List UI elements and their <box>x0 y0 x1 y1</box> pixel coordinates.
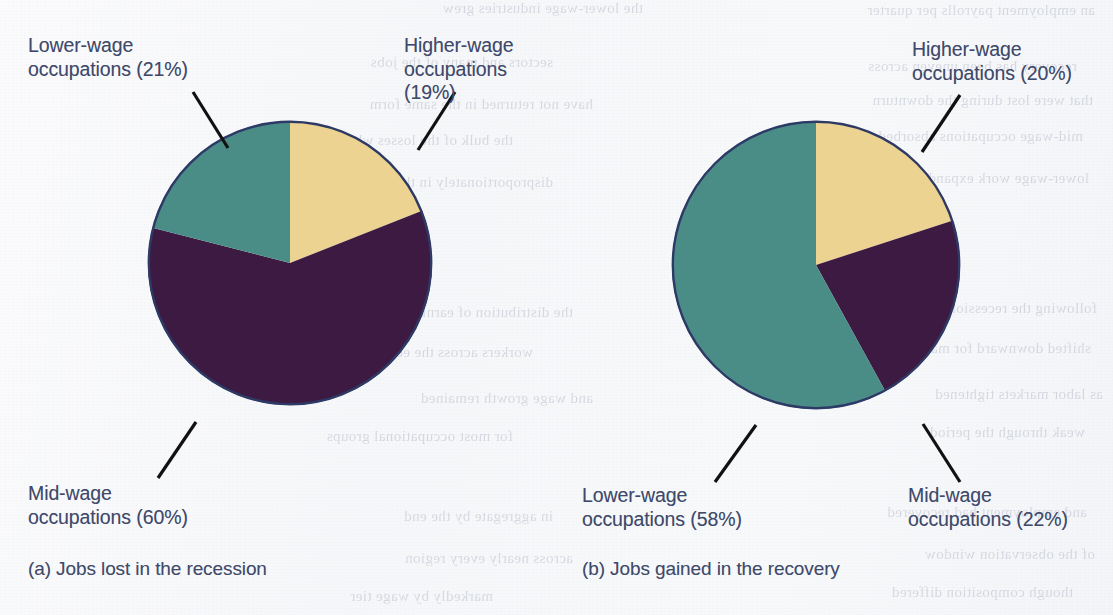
leader-line-lower-wage-a <box>193 92 228 148</box>
leader-line-higher-wage-b <box>922 95 960 152</box>
pie-b-slices <box>672 121 960 409</box>
label-lower-wage-a: Lower-wage occupations (21%) <box>28 34 188 81</box>
leader-line-mid-wage-a <box>158 422 196 478</box>
caption-panel-a: (a) Jobs lost in the recession <box>28 558 267 580</box>
label-higher-wage-a: Higher-wage occupations (19%) <box>404 34 560 105</box>
pie-a-slices <box>148 121 432 405</box>
pie-chart-figure: Lower-wage occupations (21%) Higher-wage… <box>0 0 1113 615</box>
caption-panel-b: (b) Jobs gained in the recovery <box>582 558 840 580</box>
leader-line-mid-wage-b <box>923 424 960 482</box>
panel-a-jobs-lost: Lower-wage occupations (21%) Higher-wage… <box>0 0 560 615</box>
label-mid-wage-b: Mid-wage occupations (22%) <box>908 484 1068 531</box>
label-higher-wage-b: Higher-wage occupations (20%) <box>912 38 1072 85</box>
label-mid-wage-a: Mid-wage occupations (60%) <box>28 482 188 529</box>
leader-line-lower-wage-b <box>715 425 756 482</box>
panel-b-jobs-gained: Higher-wage occupations (20%) Lower-wage… <box>560 0 1113 615</box>
label-lower-wage-b: Lower-wage occupations (58%) <box>582 484 742 531</box>
